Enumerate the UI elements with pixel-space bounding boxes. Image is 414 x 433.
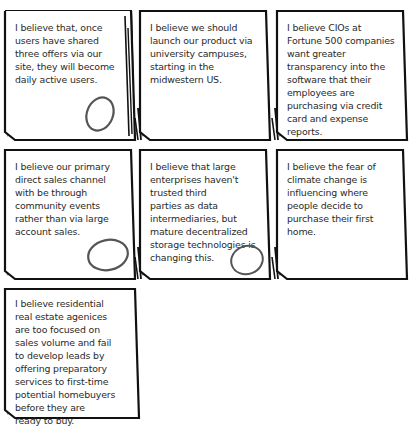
- card-text: I believe CIOs at Fortune 500 companies …: [287, 21, 395, 138]
- card-text: I believe our primary direct sales chann…: [15, 160, 110, 238]
- hypothesis-card: I believe residential real estate agenic…: [3, 286, 141, 420]
- hypothesis-card: I believe that, once users have shared t…: [3, 8, 137, 142]
- card-text: I believe the fear of climate change is …: [287, 160, 376, 238]
- hypothesis-card: I believe that large enterprises haven't…: [138, 147, 272, 281]
- circle-mark-icon: [226, 239, 270, 279]
- hypothesis-card: I believe our primary direct sales chann…: [3, 147, 137, 281]
- circle-mark-icon: [83, 235, 133, 275]
- circle-mark-icon: [80, 93, 120, 135]
- hypothesis-card: I believe the fear of climate change is …: [275, 147, 409, 281]
- card-text: I believe we should launch our product v…: [150, 21, 252, 86]
- card-text: I believe residential real estate agenic…: [15, 297, 115, 427]
- hypothesis-card: I believe CIOs at Fortune 500 companies …: [275, 8, 409, 142]
- hypothesis-card: I believe we should launch our product v…: [138, 8, 272, 142]
- card-text: I believe that, once users have shared t…: [15, 21, 114, 86]
